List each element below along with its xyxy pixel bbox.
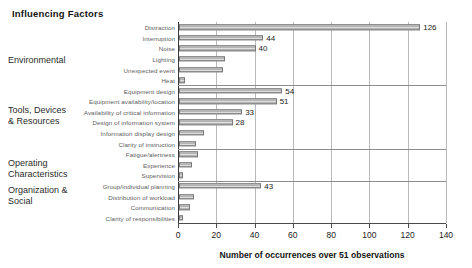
- bar: [179, 46, 256, 51]
- bar-row: Distraction126: [178, 22, 446, 33]
- category-label: Information display design: [101, 130, 175, 137]
- bar-value-label: 44: [266, 33, 275, 42]
- bar-row: Group/individual planning43: [178, 181, 446, 192]
- x-tick: [446, 224, 447, 228]
- x-tick-label: 20: [212, 230, 221, 240]
- group-label-operating-characteristics: Operating Characteristics: [8, 158, 68, 179]
- group-label-tools-devices-resources: Tools, Devices & Resources: [8, 105, 66, 126]
- bar-row: Unexpected event: [178, 64, 446, 75]
- category-label: Distraction: [145, 24, 175, 31]
- bar-row: Supervision: [178, 170, 446, 181]
- x-tick-label: 80: [326, 230, 335, 240]
- x-tick-label: 100: [362, 230, 376, 240]
- bar-row: Distribution of workload: [178, 191, 446, 202]
- category-label: Communication: [131, 204, 175, 211]
- x-tick-label: 140: [439, 230, 453, 240]
- category-label: Clarity of instruction: [118, 140, 175, 147]
- x-tick-label: 40: [250, 230, 259, 240]
- group-label-environmental: Environmental: [8, 55, 66, 66]
- bar-row: Clarity of responsibilities: [178, 212, 446, 223]
- bar: [179, 194, 194, 199]
- bar: [179, 25, 420, 30]
- category-label: Experience: [143, 161, 175, 168]
- gridline-140: [446, 22, 447, 223]
- x-axis: 020406080100120140: [178, 223, 446, 224]
- category-label: Supervision: [142, 172, 175, 179]
- x-tick: [216, 224, 217, 228]
- bar-row: Communication: [178, 202, 446, 213]
- bar: [179, 67, 223, 72]
- bar: [179, 88, 282, 93]
- bar-value-label: 33: [245, 107, 254, 116]
- x-tick-label: 120: [401, 230, 415, 240]
- bar-row: Information display design: [178, 128, 446, 139]
- category-label: Design of information system: [92, 119, 175, 126]
- bar-value-label: 43: [264, 181, 273, 190]
- bar: [179, 56, 225, 61]
- bar: [179, 109, 242, 114]
- x-axis-title: Number of occurrences over 51 observatio…: [178, 250, 446, 260]
- bar-value-label: 54: [285, 86, 294, 95]
- category-label: Lighting: [153, 56, 175, 63]
- bar-value-label: 40: [259, 44, 268, 53]
- category-label: Distribution of workload: [108, 193, 175, 200]
- x-tick-label: 0: [176, 230, 181, 240]
- x-tick: [293, 224, 294, 228]
- bar-value-label: 126: [423, 23, 436, 32]
- bar-row: Heat: [178, 75, 446, 86]
- bar-row: Interruption44: [178, 33, 446, 44]
- chart-figure: Influencing Factors Environmental Tools,…: [0, 0, 472, 268]
- category-label: Clarity of responsibilities: [106, 214, 175, 221]
- bar-row: Equipment availability/location51: [178, 96, 446, 107]
- bar: [179, 162, 192, 167]
- bar: [179, 120, 233, 125]
- bar-row: Lighting: [178, 54, 446, 65]
- category-label: Interruption: [143, 34, 176, 41]
- x-tick: [331, 224, 332, 228]
- bar: [179, 77, 185, 82]
- category-label: Noise: [159, 45, 175, 52]
- bar-value-label: 51: [280, 97, 289, 106]
- category-label: Unexpected event: [124, 66, 175, 73]
- bar: [179, 173, 183, 178]
- category-label: Fatigue/alertness: [126, 151, 175, 158]
- category-label: Availability of critical information: [84, 108, 175, 115]
- bar: [179, 152, 198, 157]
- bar-value-label: 28: [236, 118, 245, 127]
- category-label: Heat: [162, 77, 175, 84]
- bar-row: Noise40: [178, 43, 446, 54]
- bar-row: Design of information system28: [178, 117, 446, 128]
- bar: [179, 141, 196, 146]
- page-title: Influencing Factors: [12, 8, 103, 19]
- x-tick: [255, 224, 256, 228]
- bar-row: Availability of critical information33: [178, 107, 446, 118]
- bar-row: Fatigue/alertness: [178, 149, 446, 160]
- bar: [179, 215, 183, 220]
- bar-row: Clarity of instruction: [178, 138, 446, 149]
- bar-row: Experience: [178, 160, 446, 171]
- category-label: Equipment availability/location: [89, 98, 175, 105]
- x-tick: [178, 224, 179, 228]
- bar: [179, 183, 261, 188]
- bar: [179, 204, 190, 209]
- plot-area: Distraction126Interruption44Noise40Light…: [178, 22, 446, 223]
- x-tick: [408, 224, 409, 228]
- category-label: Group/individual planning: [103, 182, 175, 189]
- group-label-organization-social: Organization & Social: [8, 185, 68, 206]
- bar-row: Equipment design54: [178, 85, 446, 96]
- bar: [179, 130, 204, 135]
- category-label: Equipment design: [124, 87, 175, 94]
- x-tick-label: 60: [288, 230, 297, 240]
- bar: [179, 99, 277, 104]
- bar: [179, 35, 263, 40]
- x-tick: [369, 224, 370, 228]
